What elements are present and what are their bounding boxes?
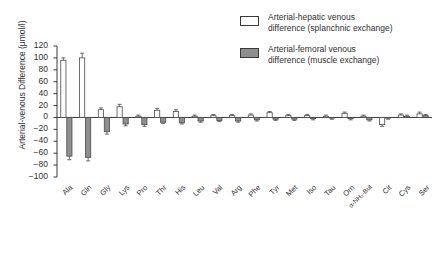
bar [236, 117, 241, 121]
bar [254, 117, 259, 119]
bar [117, 107, 122, 118]
bar [198, 117, 203, 121]
bar [61, 60, 66, 117]
bar [142, 117, 147, 124]
chart-legend: Arterial-hepatic venous difference (spla… [240, 12, 393, 76]
y-tick-label: 40 [22, 88, 48, 98]
bar [423, 116, 428, 118]
bar [104, 117, 109, 131]
bar [361, 116, 366, 117]
legend-swatch-splanchnic [240, 16, 259, 26]
bar [136, 116, 141, 117]
y-tick-label: 20 [22, 100, 48, 110]
bar [155, 110, 160, 117]
bar [86, 117, 91, 157]
bar [292, 117, 297, 119]
bar [398, 115, 403, 117]
y-tick-label: −100 [22, 171, 48, 181]
bar [404, 116, 409, 117]
legend-label-muscle: Arterial-femoral venous difference (musc… [268, 44, 379, 65]
bar [367, 117, 372, 119]
bar [98, 110, 103, 118]
bar [323, 116, 328, 117]
bar [286, 116, 291, 118]
bar [192, 116, 197, 117]
bar [342, 113, 347, 117]
bar [173, 112, 178, 118]
y-tick-label: −40 [22, 135, 48, 145]
y-tick-label: −60 [22, 147, 48, 157]
bar [267, 113, 272, 118]
bar [329, 117, 334, 118]
y-tick-label: 80 [22, 64, 48, 74]
bar [273, 117, 278, 119]
bar [211, 116, 216, 118]
bar [386, 117, 391, 118]
chart-figure: Arterial-venous Difference (μmol/l) 1201… [0, 0, 441, 253]
bar [123, 117, 128, 124]
bar [230, 116, 235, 118]
y-tick-label: 60 [22, 76, 48, 86]
y-tick-label: 0 [22, 111, 48, 121]
bar [248, 115, 253, 117]
bar-series [67, 114, 428, 160]
legend-item: Arterial-femoral venous difference (musc… [240, 44, 393, 65]
legend-item: Arterial-hepatic venous difference (spla… [240, 12, 393, 33]
bar [67, 117, 72, 156]
y-tick-label: −80 [22, 159, 48, 169]
bar [311, 117, 316, 118]
y-tick-label: 100 [22, 52, 48, 62]
bar [348, 117, 353, 118]
bar [380, 117, 385, 124]
bar [305, 116, 310, 118]
bar [417, 114, 422, 118]
bar [80, 58, 85, 118]
y-tick-label: 120 [22, 40, 48, 50]
bar [161, 117, 166, 122]
legend-swatch-muscle [240, 48, 259, 58]
bar [179, 117, 184, 122]
bar [217, 117, 222, 120]
legend-label-splanchnic: Arterial-hepatic venous difference (spla… [268, 12, 393, 33]
y-tick-label: −20 [22, 123, 48, 133]
